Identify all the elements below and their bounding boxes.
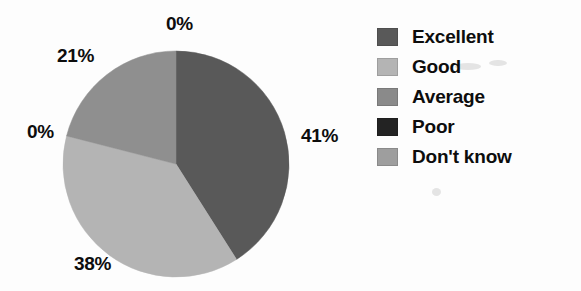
scan-speckle <box>432 188 441 196</box>
slice-label-excellent: 41% <box>301 126 338 145</box>
pie-graphic <box>62 50 290 278</box>
slice-label-dont-know: 21% <box>57 46 94 65</box>
pie-slices-group <box>63 51 289 277</box>
legend-item-excellent[interactable]: Excellent <box>377 25 512 48</box>
slice-label-top: 0% <box>166 14 193 33</box>
slice-label-good: 38% <box>74 254 111 273</box>
legend-label: Don't know <box>412 147 512 166</box>
legend-swatch-icon <box>377 58 398 76</box>
legend-label: Excellent <box>412 27 494 46</box>
chart-legend: Excellent Good Average Poor Don't know <box>377 25 512 168</box>
legend-item-average[interactable]: Average <box>377 85 512 108</box>
legend-item-dont-know[interactable]: Don't know <box>377 145 512 168</box>
legend-swatch-icon <box>377 148 398 166</box>
legend-label: Good <box>412 57 461 76</box>
legend-swatch-icon <box>377 118 398 136</box>
legend-label: Average <box>412 87 485 106</box>
legend-item-poor[interactable]: Poor <box>377 115 512 138</box>
legend-label: Poor <box>412 117 454 136</box>
pie-chart-figure: 0% 21% 0% 41% 38% Excellent Good Average… <box>0 0 581 291</box>
slice-label-left: 0% <box>27 122 54 141</box>
legend-item-good[interactable]: Good <box>377 55 512 78</box>
legend-swatch-icon <box>377 28 398 46</box>
pie-svg <box>62 50 290 278</box>
legend-swatch-icon <box>377 88 398 106</box>
